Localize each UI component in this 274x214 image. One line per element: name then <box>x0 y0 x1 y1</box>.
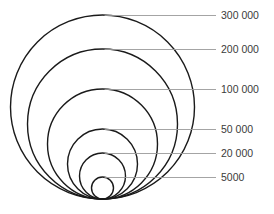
level-label-300000: 300 000 <box>221 9 259 21</box>
level-label-200000: 200 000 <box>221 43 259 55</box>
level-label-5000: 5000 <box>221 171 245 183</box>
diagram-canvas: 300 000 200 000 100 000 50 000 20 000 50… <box>0 0 274 214</box>
circle-100000 <box>48 89 158 199</box>
level-label-20000: 20 000 <box>221 147 253 159</box>
circles-group <box>11 15 195 199</box>
level-label-50000: 50 000 <box>221 123 253 135</box>
leader-lines-group <box>105 16 217 178</box>
labels-group: 300 000 200 000 100 000 50 000 20 000 50… <box>221 9 259 183</box>
circle-20000 <box>80 153 126 199</box>
circle-300000 <box>11 15 195 199</box>
nested-circles-diagram: 300 000 200 000 100 000 50 000 20 000 50… <box>0 0 274 214</box>
circle-5000 <box>92 177 114 199</box>
level-label-100000: 100 000 <box>221 83 259 95</box>
circle-50000 <box>68 129 138 199</box>
